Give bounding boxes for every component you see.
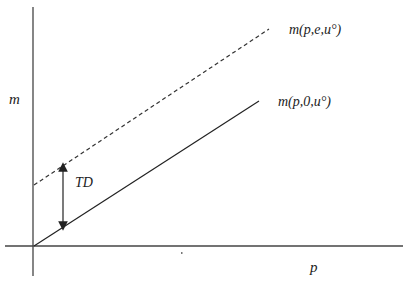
dashed-line-label: m(p,e,u°) (289, 22, 342, 38)
y-axis-label: m (9, 91, 20, 107)
solid-line-baseline (34, 101, 259, 246)
dashed-line-with-externality (34, 29, 269, 185)
stray-mark (181, 252, 183, 254)
x-axis-label: p (309, 259, 318, 275)
td-label: TD (75, 175, 93, 190)
solid-line-label: m(p,0,u°) (278, 94, 331, 110)
expenditure-diagram: m p m(p,e,u°) m(p,0,u°) TD (0, 0, 410, 284)
